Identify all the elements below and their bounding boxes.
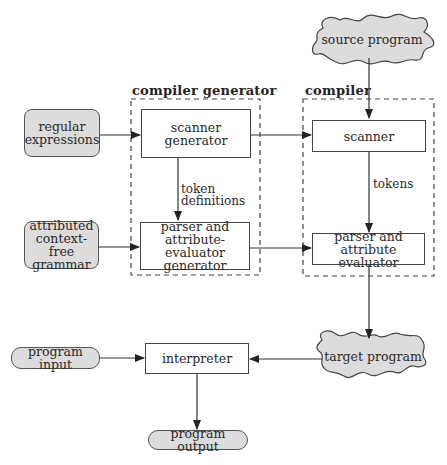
scanner-generator-line1: scanner [171,121,221,134]
program-output-label: program output [148,430,248,450]
regular-expressions-label: regular expressions [24,109,100,157]
program-input-label: program input [11,347,100,369]
compiler-title: compiler [305,83,371,98]
compiler-generator-title: compiler generator [132,83,276,98]
token-definitions-line2: definitions [181,195,245,207]
interpreter-label: interpreter [145,343,249,374]
scanner-generator-line2: generator [165,134,228,147]
target-program-label: target program [320,349,426,363]
attributed-grammar-line3: grammar [32,258,91,271]
parser-generator-label: parser and attribute-evaluator generator [137,222,253,270]
scanner-label: scanner [312,120,426,152]
source-program-label: source program [318,32,426,46]
regular-expressions-line2: expressions [25,133,100,146]
parser-evaluator-line2: attribute evaluator [312,243,425,269]
token-definitions-label: token definitions [181,183,245,207]
tokens-label: tokens [373,178,413,190]
parser-generator-line3: generator [164,259,227,272]
scanner-generator-label: scanner generator [141,109,251,158]
attributed-grammar-label: attributed context-free grammar [24,221,99,269]
parser-evaluator-label: parser and attribute evaluator [312,233,425,265]
attributed-grammar-line2: context-free [24,232,99,258]
parser-evaluator-line1: parser and [334,230,403,243]
parser-generator-line2: attribute-evaluator [137,233,253,259]
